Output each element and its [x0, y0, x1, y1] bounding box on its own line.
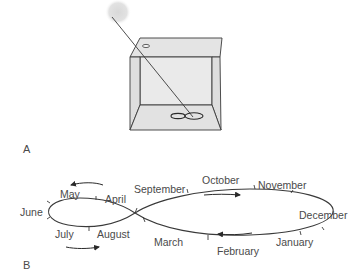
part-a-diagram: A: [23, 0, 222, 155]
label-march: March: [154, 236, 183, 248]
label-july: July: [55, 228, 74, 240]
month-ticks: [47, 185, 324, 240]
part-b-diagram: June May April July August September Oct…: [20, 174, 348, 271]
box-floor: [130, 105, 221, 130]
part-b-label: B: [23, 259, 30, 271]
label-april: April: [105, 193, 126, 205]
label-may: May: [60, 188, 81, 200]
analemma-curve: [49, 189, 334, 235]
label-february: February: [217, 245, 260, 257]
label-august: August: [97, 228, 130, 240]
label-september: September: [134, 183, 186, 195]
figure-canvas: A June May April: [0, 0, 361, 280]
sun-icon: [105, 0, 131, 25]
label-october: October: [202, 174, 240, 186]
part-a-label: A: [23, 143, 31, 155]
arrow-right-lower-icon: [66, 247, 99, 249]
label-january: January: [276, 236, 314, 248]
label-june: June: [20, 206, 43, 218]
label-november: November: [258, 179, 307, 191]
arrow-right-upper-icon: [204, 194, 240, 195]
arrow-left-upper-icon: [71, 183, 103, 185]
label-december: December: [299, 209, 348, 221]
arrow-left-lower-icon: [218, 233, 252, 235]
pinhole-icon: [143, 44, 150, 47]
